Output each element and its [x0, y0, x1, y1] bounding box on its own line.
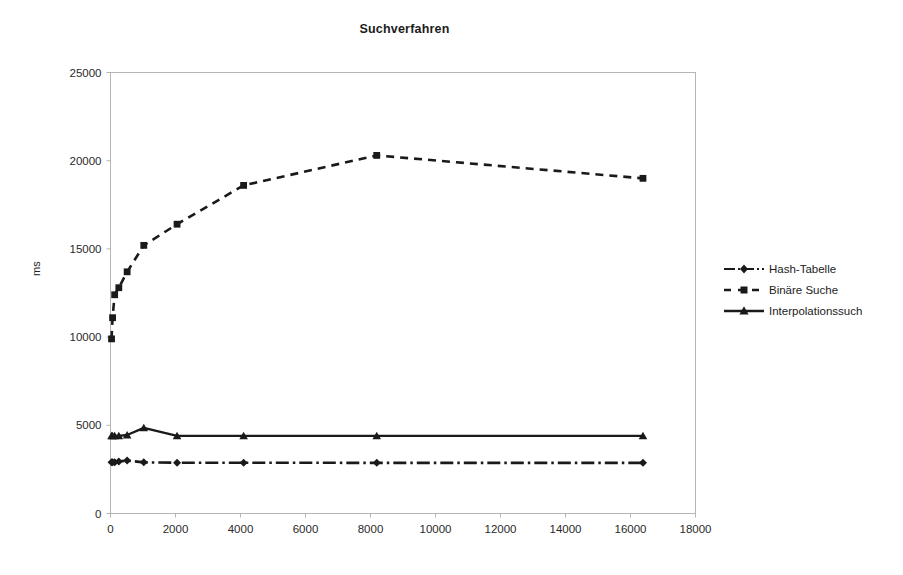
plot-frame: [111, 73, 696, 514]
svg-text:6000: 6000: [293, 523, 319, 535]
svg-text:10000: 10000: [70, 331, 102, 343]
series-bin-re-suche: [108, 152, 646, 342]
legend-key-interpolationssuch: [722, 303, 766, 319]
svg-text:0: 0: [95, 508, 101, 520]
svg-text:0: 0: [107, 523, 113, 535]
data-point-marker: [240, 182, 247, 189]
svg-text:14000: 14000: [550, 523, 582, 535]
data-point-marker: [640, 175, 647, 182]
data-point-marker: [111, 291, 118, 298]
svg-text:5000: 5000: [76, 419, 102, 431]
data-point-marker: [240, 459, 248, 467]
svg-text:4000: 4000: [228, 523, 254, 535]
data-point-marker: [140, 458, 148, 466]
svg-text:18000: 18000: [680, 523, 712, 535]
svg-text:15000: 15000: [70, 243, 102, 255]
data-point-marker: [140, 242, 147, 249]
svg-text:12000: 12000: [485, 523, 517, 535]
legend-item-interpolationssuch: Interpolationssuch: [722, 300, 892, 321]
series-interpolationssuch: [107, 424, 647, 439]
svg-text:16000: 16000: [615, 523, 647, 535]
legend-key-hash-tabelle: [722, 261, 766, 277]
svg-text:8000: 8000: [358, 523, 384, 535]
legend-label-interpolationssuch: Interpolationssuch: [766, 305, 862, 317]
legend-key-binaere-suche: [722, 282, 766, 298]
legend-label-binaere-suche: Binäre Suche: [766, 284, 838, 296]
data-point-marker: [173, 459, 181, 467]
legend-key-icon-solid: [722, 303, 766, 319]
data-point-marker: [373, 459, 381, 467]
data-point-marker: [639, 459, 647, 467]
data-point-marker: [109, 314, 116, 321]
legend-key-icon-dashed: [722, 282, 766, 298]
y-axis-tick-labels: 0500010000150002000025000: [70, 67, 111, 520]
data-point-marker: [124, 268, 131, 275]
series-line: [112, 155, 643, 338]
x-axis-tick-labels: 0200040006000800010000120001400016000180…: [107, 514, 711, 535]
data-series-group: [107, 152, 647, 467]
series-hash-tabelle: [108, 457, 647, 467]
svg-text:10000: 10000: [420, 523, 452, 535]
chart-legend: Hash-Tabelle Binäre Suche Interpolations…: [722, 258, 892, 321]
data-point-marker: [373, 152, 380, 159]
data-point-marker: [174, 221, 181, 228]
svg-text:2000: 2000: [163, 523, 189, 535]
legend-key-icon-dashdot: [722, 261, 766, 277]
chart-container: Suchverfahren ms 05000100001500020000250…: [0, 0, 903, 575]
data-point-marker: [115, 284, 122, 291]
legend-label-hash-tabelle: Hash-Tabelle: [766, 263, 836, 275]
data-point-marker: [123, 457, 131, 465]
legend-item-binaere-suche: Binäre Suche: [722, 279, 892, 300]
legend-item-hash-tabelle: Hash-Tabelle: [722, 258, 892, 279]
svg-text:20000: 20000: [70, 155, 102, 167]
svg-text:25000: 25000: [70, 67, 102, 79]
data-point-marker: [108, 335, 115, 342]
